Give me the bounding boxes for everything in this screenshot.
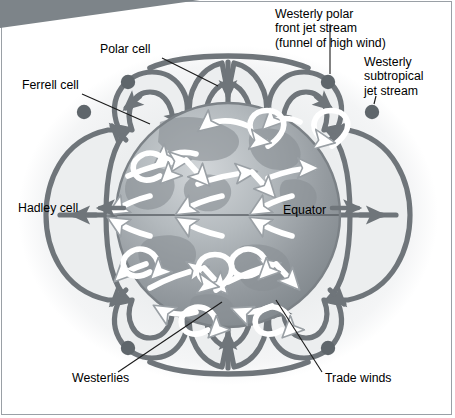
jet-dot-upper-left <box>121 75 135 89</box>
label-hadley-cell: Hadley cell <box>18 201 78 215</box>
jet-dot-subtropical-right <box>365 105 379 119</box>
label-equator: Equator <box>283 203 326 217</box>
label-ferrell-cell: Ferrell cell <box>22 78 79 92</box>
jet-dot-lower-right <box>321 341 335 355</box>
corner-banner <box>0 0 200 28</box>
jet-dot-upper-right <box>321 75 335 89</box>
jet-dot-lower-left <box>121 341 135 355</box>
label-westerlies: Westerlies <box>72 371 129 385</box>
jet-dot-left-mid-upper <box>77 105 91 119</box>
diagram-page: Polar cell Ferrell cell Hadley cell Equa… <box>0 0 455 418</box>
label-trade-winds: Trade winds <box>325 371 392 385</box>
label-subtropical-jet-stream: Westerly subtropical jet stream <box>364 55 423 98</box>
label-polar-cell: Polar cell <box>100 42 151 56</box>
label-polar-front-jet-stream: Westerly polar front jet stream (funnel … <box>275 7 386 50</box>
